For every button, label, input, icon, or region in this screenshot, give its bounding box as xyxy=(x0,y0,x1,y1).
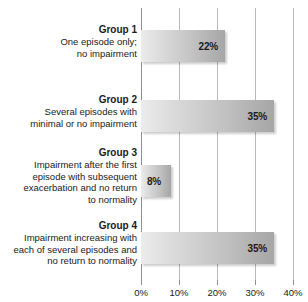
category-desc-line: episode with subsequent xyxy=(4,171,137,183)
bar-value-group-3: 8% xyxy=(147,176,161,187)
gridline-40 xyxy=(293,8,294,280)
tick-mark-30 xyxy=(255,280,256,285)
tick-label-0: 0% xyxy=(121,287,161,298)
bar-row-group-1: 22% xyxy=(141,30,225,62)
category-desc-line: to normality xyxy=(4,194,137,206)
category-label-group-1: Group 1 One episode only; no impairment xyxy=(4,24,137,59)
category-title: Group 3 xyxy=(4,147,137,159)
tick-label-40: 40% xyxy=(273,287,308,298)
bar-row-group-4: 35% xyxy=(141,232,274,264)
bar-group-4: 35% xyxy=(141,232,274,264)
bar-value-group-2: 35% xyxy=(248,111,267,122)
bar-group-2: 35% xyxy=(141,100,274,132)
tick-label-10: 10% xyxy=(159,287,199,298)
category-desc-line: Impairment after the first xyxy=(4,159,137,171)
category-desc-line: Several episodes with xyxy=(4,106,137,118)
bar-row-group-3: 8% xyxy=(141,165,171,197)
category-desc-line: no return to normality xyxy=(4,255,137,267)
category-title: Group 2 xyxy=(4,94,137,106)
tick-mark-0 xyxy=(141,280,142,285)
category-label-group-3: Group 3 Impairment after the first episo… xyxy=(4,147,137,205)
tick-mark-40 xyxy=(293,280,294,285)
tick-label-30: 30% xyxy=(235,287,275,298)
bar-value-group-1: 22% xyxy=(199,41,218,52)
category-desc-line: each of several episodes and xyxy=(4,244,137,256)
tick-mark-10 xyxy=(179,280,180,285)
bar-group-1: 22% xyxy=(141,30,225,62)
category-label-group-4: Group 4 Impairment increasing with each … xyxy=(4,220,137,267)
category-desc-line: minimal or no impairment xyxy=(4,118,137,130)
category-desc-line: One episode only; xyxy=(4,36,137,48)
bar-group-3: 8% xyxy=(141,165,171,197)
bar-value-group-4: 35% xyxy=(248,243,267,254)
category-desc-line: Impairment increasing with xyxy=(4,232,137,244)
category-desc-line: no impairment xyxy=(4,48,137,60)
category-title: Group 4 xyxy=(4,220,137,232)
tick-label-20: 20% xyxy=(197,287,237,298)
category-label-group-2: Group 2 Several episodes with minimal or… xyxy=(4,94,137,129)
bar-row-group-2: 35% xyxy=(141,100,274,132)
category-desc-line: exacerbation and no return xyxy=(4,182,137,194)
bar-chart: Group 1 One episode only; no impairment … xyxy=(0,0,308,302)
tick-mark-20 xyxy=(217,280,218,285)
category-title: Group 1 xyxy=(4,24,137,36)
